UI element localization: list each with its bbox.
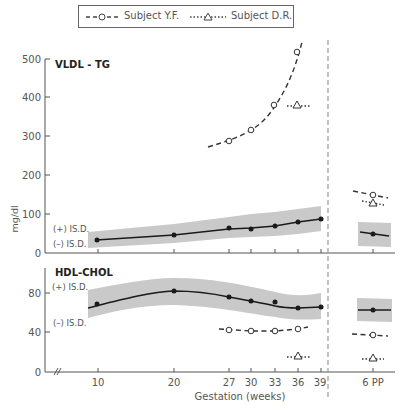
vldl-title: VLDL - TG <box>55 59 110 70</box>
vldl-sd-minus-label: (–) IS.D. <box>53 239 86 249</box>
xtick-30: 30 <box>245 377 258 388</box>
xtick-39: 39 <box>314 377 327 388</box>
xtick-33: 33 <box>269 377 282 388</box>
legend-dr-symbol <box>190 13 226 20</box>
vldl-ytick-200: 200 <box>22 170 41 181</box>
vldl-ytick-400: 400 <box>22 92 41 103</box>
hdl-ytick-0: 0 <box>35 367 41 378</box>
hdl-ytick-80: 80 <box>28 288 41 299</box>
vldl-ytick-100: 100 <box>22 209 41 220</box>
vldl-sd-band <box>88 206 321 248</box>
hdl-sd-minus-label: (–) IS.D. <box>53 318 86 328</box>
vldl-ytick-300: 300 <box>22 131 41 142</box>
vldl-sd-plus-label: (+) IS.D. <box>53 224 89 234</box>
xtick-6pp: 6 PP <box>362 377 384 388</box>
vldl-panel <box>45 42 395 253</box>
xtick-36: 36 <box>292 377 305 388</box>
vldl-ytick-500: 500 <box>22 54 41 65</box>
hdl-panel <box>45 268 395 375</box>
xtick-27: 27 <box>223 377 236 388</box>
chart-canvas: 500 400 300 200 100 0 mg/dl VLDL - TG (+… <box>0 0 406 410</box>
y-axis-label: mg/dl <box>9 205 20 232</box>
xtick-20: 20 <box>168 377 181 388</box>
vldl-yf-curve <box>208 42 302 147</box>
xtick-10: 10 <box>92 377 105 388</box>
hdl-ytick-40: 40 <box>28 327 41 338</box>
vldl-ytick-0: 0 <box>35 248 41 259</box>
x-axis-label: Gestation (weeks) <box>195 391 286 402</box>
hdl-title: HDL-CHOL <box>55 267 113 278</box>
hdl-sd-plus-label: (+) IS.D. <box>52 282 88 292</box>
legend-yf-symbol <box>86 14 118 20</box>
